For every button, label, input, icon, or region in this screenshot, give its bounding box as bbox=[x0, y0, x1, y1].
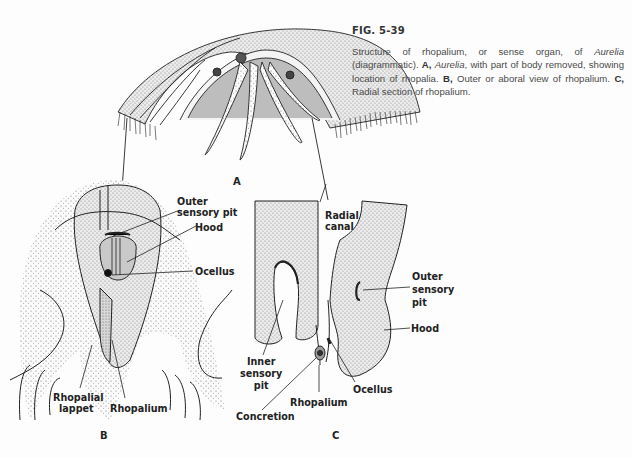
label-c-inner-sensory-pit: Inner sensory pit bbox=[240, 356, 282, 392]
label-b-rhopalium: Rhopalium bbox=[110, 403, 168, 414]
label-b-rhopalial-lappet: Rhopalial lappet bbox=[53, 392, 104, 414]
figure-caption: FIG. 5-39 Structure of rhopalium, or sen… bbox=[352, 25, 624, 98]
label-c-rhopalium: Rhopalium bbox=[290, 397, 348, 408]
label-b-ocellus: Ocellus bbox=[195, 266, 234, 277]
figure-number: FIG. 5-39 bbox=[352, 25, 624, 36]
label-c-concretion: Concretion bbox=[236, 411, 295, 422]
label-c-ocellus: Ocellus bbox=[353, 384, 392, 395]
label-c-hood: Hood bbox=[411, 323, 439, 334]
panel-label-c: C bbox=[332, 430, 339, 441]
label-b-outer-sensory-pit: Outer sensory pit bbox=[177, 196, 237, 218]
label-c-radial-canal: Radial canal bbox=[325, 210, 359, 232]
label-b-hood: Hood bbox=[195, 222, 223, 233]
panel-label-a: A bbox=[233, 176, 241, 187]
caption-text: Structure of rhopalium, or sense organ, … bbox=[352, 45, 624, 98]
panel-label-b: B bbox=[100, 430, 108, 441]
label-c-outer-sensory-pit: Outer sensory pit bbox=[412, 270, 454, 309]
